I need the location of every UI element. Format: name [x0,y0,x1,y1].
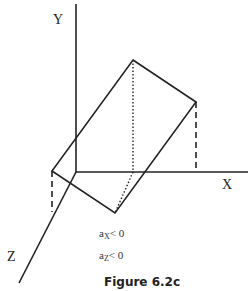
z-axis [19,172,76,283]
condition-ax-relation: < 0 [110,227,124,239]
condition-ax: aX< 0 [99,228,124,241]
x-axis-label: X [222,178,232,192]
diagram-canvas [0,0,252,291]
figure-caption: Figure 6.2c [104,276,180,288]
z-axis-label: Z [7,250,16,264]
condition-az: aZ< 0 [99,250,123,263]
condition-az-relation: < 0 [109,249,123,261]
parallelogram [52,60,196,213]
y-axis-label: Y [53,13,63,27]
